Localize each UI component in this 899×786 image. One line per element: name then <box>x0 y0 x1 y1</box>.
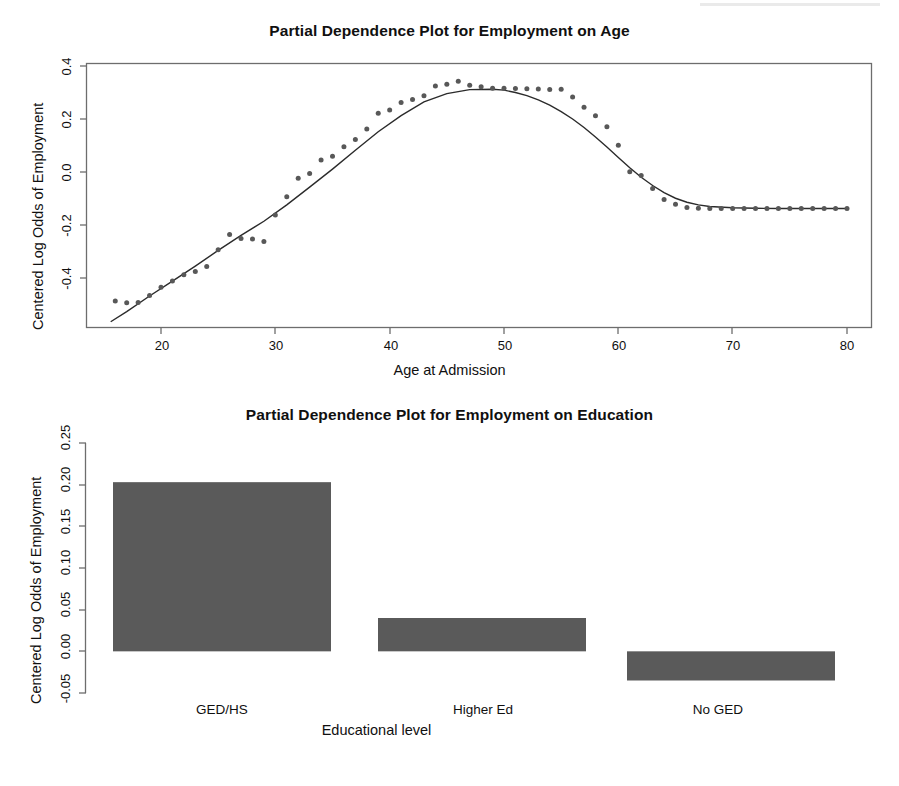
chart-panel-age: Partial Dependence Plot for Employment o… <box>0 0 899 392</box>
scatter-point <box>639 173 644 178</box>
scatter-point <box>776 206 781 211</box>
scatter-point <box>559 87 564 92</box>
scatter-point <box>604 124 609 129</box>
scatter-point <box>227 232 232 237</box>
scatter-point <box>284 194 289 199</box>
scatter-point <box>822 206 827 211</box>
scatter-point <box>456 79 461 84</box>
x-ticks-age <box>161 328 847 334</box>
y-ticks-age <box>80 66 86 278</box>
bar-ged-hs <box>113 482 331 651</box>
plot-area-age <box>0 0 899 392</box>
scatter-point <box>684 205 689 210</box>
scatter-point <box>353 137 358 142</box>
scatter-point <box>193 269 198 274</box>
scatter-point <box>273 212 278 217</box>
scatter-point <box>810 206 815 211</box>
scatter-point <box>159 285 164 290</box>
scatter-point <box>216 247 221 252</box>
scatter-point <box>479 84 484 89</box>
scatter-point <box>364 127 369 132</box>
scatter-point <box>707 206 712 211</box>
scatter-point <box>524 86 529 91</box>
scatter-point <box>719 206 724 211</box>
scatter-point <box>204 264 209 269</box>
scatter-point <box>433 83 438 88</box>
scatter-point <box>764 206 769 211</box>
scatter-point <box>616 143 621 148</box>
scatter-point <box>181 272 186 277</box>
scatter-point <box>662 197 667 202</box>
scatter-point <box>696 206 701 211</box>
figure-root: Partial Dependence Plot for Employment o… <box>0 0 899 786</box>
scatter-point <box>136 300 141 305</box>
scatter-point <box>341 144 346 149</box>
scatter-point <box>113 299 118 304</box>
scatter-point <box>307 171 312 176</box>
scatter-point <box>787 206 792 211</box>
scatter-point <box>650 186 655 191</box>
scatter-point <box>570 95 575 100</box>
scatter-point <box>467 83 472 88</box>
chart-panel-education: Partial Dependence Plot for Employment o… <box>0 392 899 786</box>
scatter-point <box>421 93 426 98</box>
scatter-point <box>387 107 392 112</box>
scatter-point <box>147 293 152 298</box>
scatter-point <box>627 169 632 174</box>
scatter-point <box>124 300 129 305</box>
scatter-point <box>730 206 735 211</box>
scatter-point <box>330 154 335 159</box>
bar-group-education <box>113 482 835 680</box>
scatter-point <box>399 100 404 105</box>
scatter-point <box>799 206 804 211</box>
scatter-point <box>261 239 266 244</box>
scatter-point <box>593 113 598 118</box>
scatter-point <box>239 236 244 241</box>
scatter-point <box>845 206 850 211</box>
scatter-point <box>376 111 381 116</box>
scatter-point <box>742 206 747 211</box>
scatter-point <box>536 87 541 92</box>
bar-no-ged <box>627 651 835 680</box>
scatter-point <box>296 176 301 181</box>
scatter-point <box>513 86 518 91</box>
scatter-point <box>490 86 495 91</box>
scatter-points-age <box>113 79 850 305</box>
scatter-point <box>673 202 678 207</box>
bar-higher-ed <box>378 618 586 651</box>
plot-area-education <box>0 392 899 786</box>
scatter-point <box>410 97 415 102</box>
scatter-point <box>250 237 255 242</box>
scatter-point <box>319 158 324 163</box>
scatter-point <box>833 206 838 211</box>
scatter-point <box>444 82 449 87</box>
scatter-point <box>753 206 758 211</box>
scatter-point <box>582 105 587 110</box>
plot-frame-age <box>87 64 872 328</box>
scan-artifact-top <box>700 3 880 6</box>
scatter-point <box>502 86 507 91</box>
scatter-point <box>547 87 552 92</box>
fit-curve-age <box>111 89 847 321</box>
scatter-point <box>170 278 175 283</box>
